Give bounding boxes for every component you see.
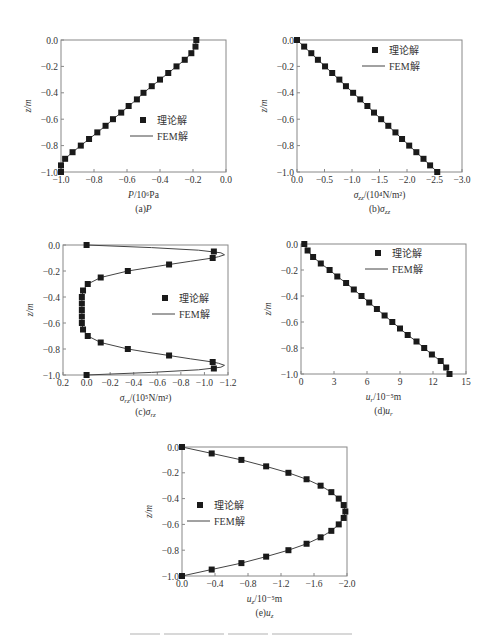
theory-marker xyxy=(378,116,384,122)
subplot-d: 036912150.0−0.2−0.4−0.6−0.8−1.0z/mur/10⁻… xyxy=(263,240,471,419)
theory-marker xyxy=(350,90,356,96)
theory-marker xyxy=(334,274,340,280)
theory-marker xyxy=(359,293,365,299)
theory-marker xyxy=(179,573,185,579)
x-tick-label: −0.4 xyxy=(151,175,168,185)
subplot-caption: (c)σrz xyxy=(135,407,156,419)
y-tick-label: −0.2 xyxy=(43,267,60,277)
y-tick-label: −1.0 xyxy=(43,371,60,381)
theory-marker xyxy=(166,353,172,359)
x-tick-label: −0.2 xyxy=(102,378,119,388)
theory-marker xyxy=(210,359,216,365)
theory-marker xyxy=(327,267,333,273)
legend-label-fem: FEM解 xyxy=(389,60,420,72)
theory-marker xyxy=(301,241,307,247)
figure-canvas: −1.0−0.8−0.6−0.4−0.20.00.0−0.2−0.4−0.6−0… xyxy=(0,0,497,639)
x-tick-label: −0.5 xyxy=(316,175,333,185)
theory-marker xyxy=(80,327,86,333)
y-tick-label: −0.8 xyxy=(277,141,294,151)
legend-label-theory: 理论解 xyxy=(157,114,187,126)
theory-marker xyxy=(98,275,104,281)
theory-marker xyxy=(427,162,433,168)
theory-marker xyxy=(80,288,86,294)
theory-marker xyxy=(79,294,85,300)
theory-marker xyxy=(304,476,310,482)
legend-marker-icon xyxy=(162,295,168,301)
theory-marker xyxy=(301,44,307,50)
x-tick-label: 0.0 xyxy=(81,378,93,388)
theory-marker xyxy=(318,261,324,267)
y-tick-label: −0.4 xyxy=(41,88,58,98)
theory-marker xyxy=(238,560,244,566)
theory-marker xyxy=(98,340,104,346)
theory-marker xyxy=(86,136,92,142)
y-tick-label: −0.6 xyxy=(281,318,298,328)
subplot-caption: (e)uz xyxy=(255,608,273,620)
theory-marker xyxy=(188,50,194,56)
theory-marker xyxy=(193,37,199,43)
x-tick-label: −0.6 xyxy=(149,378,166,388)
theory-marker xyxy=(62,156,68,162)
x-tick-label: −1.0 xyxy=(196,378,213,388)
y-axis-label: z/m xyxy=(259,99,269,113)
theory-marker xyxy=(389,319,395,325)
theory-marker xyxy=(397,326,403,332)
theory-marker xyxy=(421,156,427,162)
x-axis-label: σzz/(10⁴N/m²) xyxy=(354,190,406,202)
x-tick-label: −0.8 xyxy=(85,175,102,185)
theory-marker xyxy=(414,339,420,345)
theory-marker xyxy=(84,242,90,248)
theory-marker xyxy=(141,90,147,96)
y-tick-label: −0.6 xyxy=(162,520,179,530)
x-tick-label: −1.5 xyxy=(371,175,388,185)
legend-label-theory: 理论解 xyxy=(179,292,209,304)
theory-marker xyxy=(125,268,131,274)
theory-marker xyxy=(310,254,316,260)
theory-marker xyxy=(126,103,132,109)
theory-marker xyxy=(209,450,215,456)
x-tick-label: −1.2 xyxy=(219,378,236,388)
theory-marker xyxy=(366,300,372,306)
x-axis-label: P/10⁶Pa xyxy=(127,190,160,200)
y-tick-label: 0.0 xyxy=(48,241,60,251)
theory-marker xyxy=(318,483,324,489)
legend-marker-icon xyxy=(197,502,203,508)
x-tick-label: −0.4 xyxy=(206,579,223,589)
x-tick-label: 15 xyxy=(461,377,471,387)
theory-marker xyxy=(341,502,347,508)
y-tick-label: 0.0 xyxy=(282,36,294,46)
y-axis-label: z/m xyxy=(23,99,33,113)
theory-marker xyxy=(374,306,380,312)
y-tick-label: −0.8 xyxy=(41,141,58,151)
theory-marker xyxy=(336,77,342,83)
subplot-caption: (b)σzz xyxy=(369,204,390,216)
legend-label-theory: 理论解 xyxy=(214,499,244,511)
theory-marker xyxy=(85,281,91,287)
theory-marker xyxy=(78,143,84,149)
legend-marker-icon xyxy=(375,250,381,256)
theory-marker xyxy=(385,123,391,129)
legend-label-theory: 理论解 xyxy=(392,247,422,259)
y-tick-label: −0.2 xyxy=(281,266,298,276)
theory-marker xyxy=(336,521,342,527)
y-tick-label: −0.2 xyxy=(277,62,294,72)
x-tick-label: −0.2 xyxy=(184,175,201,185)
legend-label-fem: FEM解 xyxy=(157,130,188,142)
legend-label-theory: 理论解 xyxy=(389,44,419,56)
theory-marker xyxy=(149,83,155,89)
theory-marker xyxy=(134,96,140,102)
x-tick-label: −2.0 xyxy=(398,175,415,185)
theory-marker xyxy=(238,457,244,463)
theory-marker xyxy=(406,143,412,149)
theory-marker xyxy=(329,70,335,76)
theory-marker xyxy=(79,301,85,307)
theory-marker xyxy=(285,547,291,553)
x-tick-label: −1.0 xyxy=(343,175,360,185)
x-tick-label: −2.5 xyxy=(426,175,443,185)
theory-marker xyxy=(110,116,116,122)
y-tick-label: −0.2 xyxy=(41,62,58,72)
theory-marker xyxy=(399,136,405,142)
theory-marker xyxy=(294,37,300,43)
y-tick-label: −1.0 xyxy=(281,370,298,380)
theory-marker xyxy=(413,149,419,155)
